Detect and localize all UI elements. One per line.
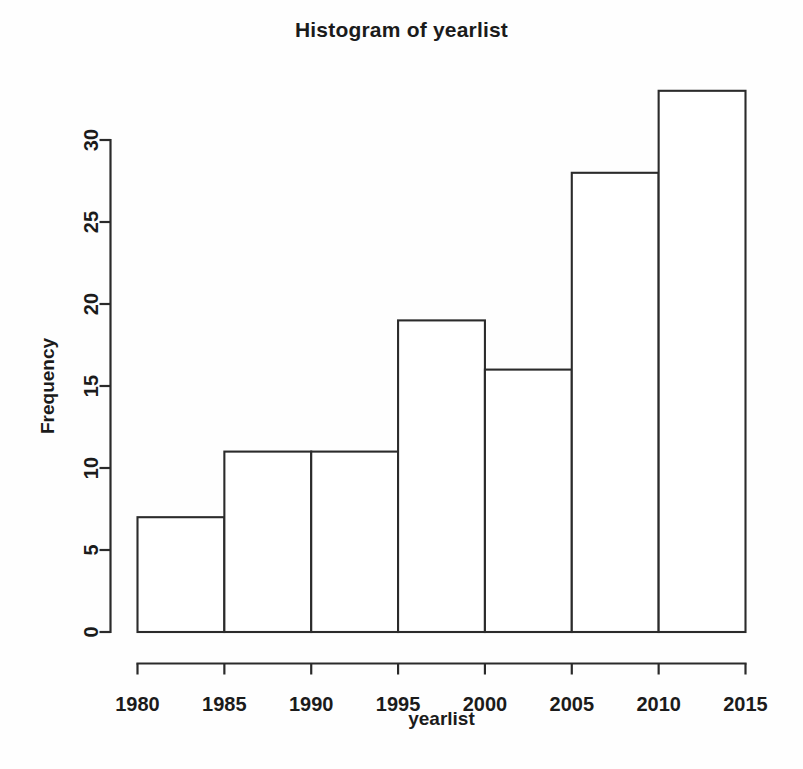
histogram-bar [224, 452, 311, 632]
y-axis-tick-label: 15 [80, 375, 102, 397]
x-axis-title: yearlist [408, 708, 475, 729]
x-axis-tick-label: 1980 [115, 693, 160, 715]
x-axis-tick-label: 2015 [723, 693, 768, 715]
histogram-bar [311, 452, 398, 632]
x-axis-tick-label: 2010 [636, 693, 681, 715]
y-axis-tick-label: 5 [80, 544, 102, 555]
x-axis-tick-label: 2005 [550, 693, 595, 715]
y-axis-title: Frequency [37, 338, 58, 435]
histogram-bar [572, 173, 659, 632]
x-axis-tick-label: 1990 [289, 693, 334, 715]
histogram-bar [398, 320, 485, 632]
bars-group [138, 91, 746, 632]
histogram-figure: Histogram of yearlist 051015202530 19801… [0, 0, 803, 769]
y-axis-tick-label: 25 [80, 211, 102, 233]
y-axis-tick-label: 20 [80, 293, 102, 315]
plot-canvas: 051015202530 198019851990199520002005201… [0, 0, 803, 769]
x-axis-tick-label: 1985 [202, 693, 247, 715]
y-axis-tick-label: 10 [80, 457, 102, 479]
y-axis-tick-label: 30 [80, 129, 102, 151]
y-axis: 051015202530 [80, 129, 111, 638]
histogram-bar [485, 370, 572, 632]
histogram-bar [659, 91, 746, 632]
histogram-bar [138, 517, 225, 632]
y-axis-tick-label: 0 [80, 626, 102, 637]
